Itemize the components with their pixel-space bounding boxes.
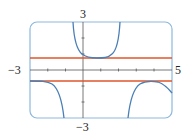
y-max-label: 3 [80,8,86,20]
x-min-label: −3 [8,64,21,76]
y-min-label: −3 [76,121,89,133]
x-max-label: 5 [175,64,181,76]
plot-canvas [0,0,189,136]
